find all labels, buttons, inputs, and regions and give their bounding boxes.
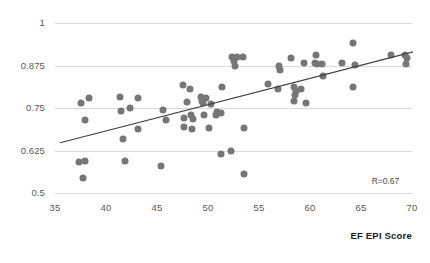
data-point	[277, 66, 284, 73]
data-point	[239, 54, 246, 61]
data-point	[349, 83, 356, 90]
data-point	[313, 52, 320, 59]
data-point	[338, 60, 345, 67]
data-point	[81, 117, 88, 124]
data-point	[302, 99, 309, 106]
gridline	[55, 23, 412, 24]
plot-area	[55, 23, 412, 193]
data-point	[117, 94, 124, 101]
x-tick-label: 55	[239, 202, 279, 213]
x-tick-label: 40	[86, 202, 126, 213]
data-point	[189, 115, 196, 122]
data-point	[219, 83, 226, 90]
data-point	[77, 99, 84, 106]
y-tick-label: 0.75	[0, 102, 45, 113]
x-tick-label: 70	[392, 202, 430, 213]
data-point	[158, 162, 165, 169]
data-point	[231, 62, 238, 69]
data-point	[287, 54, 294, 61]
data-point	[118, 108, 125, 115]
y-tick-label: 0.875	[0, 60, 45, 71]
x-tick-label: 45	[137, 202, 177, 213]
data-point	[122, 158, 129, 165]
data-point	[320, 72, 327, 79]
data-point	[208, 100, 215, 107]
data-point	[297, 86, 304, 93]
x-tick-label: 60	[290, 202, 330, 213]
data-point	[81, 158, 88, 165]
data-point	[206, 125, 213, 132]
data-point	[85, 94, 92, 101]
data-point	[300, 60, 307, 67]
data-point	[218, 150, 225, 157]
scatter-chart: 0.50.6250.750.8751 3540455055606570 EF E…	[0, 0, 430, 263]
data-point	[160, 107, 167, 114]
data-point	[200, 112, 207, 119]
x-axis-title: EF EPI Score	[320, 230, 412, 241]
y-tick-label: 0.625	[0, 145, 45, 156]
x-tick-label: 65	[341, 202, 381, 213]
data-point	[387, 52, 394, 59]
data-point	[163, 116, 170, 123]
x-tick-label: 35	[35, 202, 75, 213]
data-point	[240, 170, 247, 177]
data-point	[179, 81, 186, 88]
data-point	[180, 124, 187, 131]
data-point	[319, 61, 326, 68]
data-point	[240, 125, 247, 132]
data-point	[120, 136, 127, 143]
correlation-annotation: R=0.67	[372, 176, 400, 186]
data-point	[290, 97, 297, 104]
data-point	[183, 98, 190, 105]
data-point	[351, 62, 358, 69]
data-point	[213, 112, 220, 119]
data-point	[134, 94, 141, 101]
data-point	[188, 126, 195, 133]
data-point	[134, 126, 141, 133]
x-tick-label: 50	[188, 202, 228, 213]
data-point	[275, 86, 282, 93]
data-point	[228, 147, 235, 154]
data-point	[349, 40, 356, 47]
gridline	[55, 193, 412, 194]
data-point	[402, 60, 409, 67]
y-tick-label: 0.5	[0, 187, 45, 198]
data-point	[186, 86, 193, 93]
y-tick-label: 1	[0, 17, 45, 28]
data-point	[265, 80, 272, 87]
data-point	[180, 114, 187, 121]
data-point	[127, 105, 134, 112]
data-point	[79, 174, 86, 181]
gridline	[55, 108, 412, 109]
